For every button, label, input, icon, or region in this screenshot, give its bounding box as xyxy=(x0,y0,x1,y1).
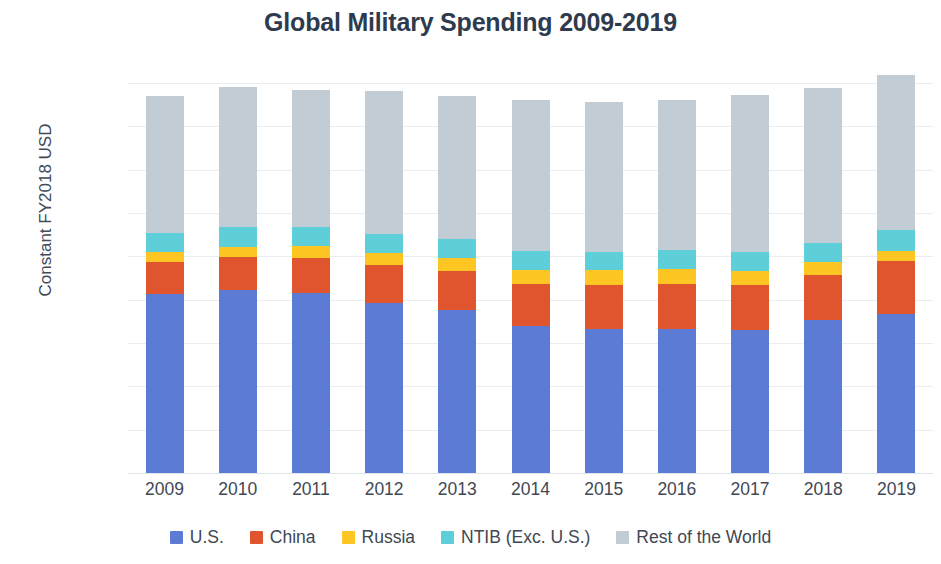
bar-segment[interactable] xyxy=(292,246,330,257)
legend-label: NTIB (Exc. U.S.) xyxy=(461,527,590,548)
bar-segment[interactable] xyxy=(146,96,184,233)
legend-item[interactable]: Rest of the World xyxy=(616,527,771,548)
bar-group[interactable] xyxy=(146,83,184,473)
bar-segment[interactable] xyxy=(804,275,842,320)
bar-group[interactable] xyxy=(658,83,696,473)
chart-title: Global Military Spending 2009-2019 xyxy=(0,8,941,37)
bar-segment[interactable] xyxy=(658,250,696,269)
bar-group[interactable] xyxy=(585,83,623,473)
legend-item[interactable]: Russia xyxy=(342,527,416,548)
bar-segment[interactable] xyxy=(292,293,330,473)
bar-segment[interactable] xyxy=(877,251,915,261)
bar-segment[interactable] xyxy=(146,262,184,294)
x-axis-tick-label: 2018 xyxy=(787,479,859,500)
bar-segment[interactable] xyxy=(804,262,842,275)
bar-segment[interactable] xyxy=(804,88,842,243)
plot-area: $0B$200B$400B$600B$800B$1000B$1200B$1400… xyxy=(128,83,933,473)
legend-label: China xyxy=(270,527,316,548)
bar-segment[interactable] xyxy=(512,251,550,270)
bar-group[interactable] xyxy=(365,83,403,473)
bar-segment[interactable] xyxy=(146,294,184,473)
bar-segment[interactable] xyxy=(219,227,257,247)
bar-segment[interactable] xyxy=(731,330,769,473)
bar-segment[interactable] xyxy=(658,269,696,284)
bar-segment[interactable] xyxy=(658,284,696,329)
legend-item[interactable]: China xyxy=(250,527,316,548)
bar-segment[interactable] xyxy=(219,87,257,227)
bar-segment[interactable] xyxy=(292,90,330,227)
bar-segment[interactable] xyxy=(219,257,257,290)
bar-group[interactable] xyxy=(804,83,842,473)
x-axis-tick-label: 2019 xyxy=(860,479,932,500)
bar-segment[interactable] xyxy=(658,100,696,250)
bar-segment[interactable] xyxy=(146,252,184,262)
bar-segment[interactable] xyxy=(365,253,403,266)
bar-segment[interactable] xyxy=(585,252,623,271)
bar-segment[interactable] xyxy=(585,270,623,285)
bar-group[interactable] xyxy=(877,83,915,473)
legend-item[interactable]: U.S. xyxy=(170,527,224,548)
bar-segment[interactable] xyxy=(365,265,403,302)
bar-segment[interactable] xyxy=(877,75,915,230)
legend-item[interactable]: NTIB (Exc. U.S.) xyxy=(441,527,590,548)
bar-segment[interactable] xyxy=(512,326,550,473)
bar-series-area xyxy=(128,83,933,473)
y-axis-title: Constant FY2018 USD xyxy=(36,80,56,340)
bar-segment[interactable] xyxy=(438,239,476,258)
bar-segment[interactable] xyxy=(219,247,257,257)
bar-group[interactable] xyxy=(512,83,550,473)
x-axis-tick-label: 2010 xyxy=(202,479,274,500)
bar-segment[interactable] xyxy=(585,102,623,252)
gridline xyxy=(128,473,933,474)
legend-label: U.S. xyxy=(190,527,224,548)
bar-segment[interactable] xyxy=(585,285,623,329)
legend-label: Russia xyxy=(362,527,416,548)
bar-segment[interactable] xyxy=(438,258,476,271)
bar-group[interactable] xyxy=(219,83,257,473)
bar-segment[interactable] xyxy=(804,320,842,473)
bar-segment[interactable] xyxy=(365,303,403,473)
bar-segment[interactable] xyxy=(292,258,330,293)
bar-segment[interactable] xyxy=(731,271,769,284)
bar-segment[interactable] xyxy=(731,285,769,331)
x-axis-tick-label: 2013 xyxy=(421,479,493,500)
bar-segment[interactable] xyxy=(877,230,915,251)
x-axis-tick-label: 2014 xyxy=(495,479,567,500)
bar-group[interactable] xyxy=(292,83,330,473)
bar-segment[interactable] xyxy=(146,233,184,253)
legend-swatch-icon xyxy=(616,531,629,544)
legend-swatch-icon xyxy=(342,531,355,544)
bar-segment[interactable] xyxy=(438,310,476,473)
bar-group[interactable] xyxy=(438,83,476,473)
x-axis-tick-label: 2015 xyxy=(568,479,640,500)
chart-legend: U.S.ChinaRussiaNTIB (Exc. U.S.)Rest of t… xyxy=(0,527,941,548)
x-axis-tick-label: 2017 xyxy=(714,479,786,500)
bar-segment[interactable] xyxy=(585,329,623,473)
x-axis-tick-label: 2009 xyxy=(129,479,201,500)
bar-segment[interactable] xyxy=(731,252,769,271)
chart-container: Global Military Spending 2009-2019 Const… xyxy=(0,0,941,564)
bar-segment[interactable] xyxy=(512,270,550,284)
bar-segment[interactable] xyxy=(731,95,769,252)
bar-segment[interactable] xyxy=(292,227,330,247)
bar-segment[interactable] xyxy=(438,96,476,238)
bar-group[interactable] xyxy=(731,83,769,473)
bar-segment[interactable] xyxy=(877,261,915,314)
bar-segment[interactable] xyxy=(512,100,550,251)
legend-label: Rest of the World xyxy=(636,527,771,548)
legend-swatch-icon xyxy=(441,531,454,544)
x-axis-tick-label: 2012 xyxy=(348,479,420,500)
bar-segment[interactable] xyxy=(219,290,257,473)
bar-segment[interactable] xyxy=(877,314,915,473)
bar-segment[interactable] xyxy=(438,271,476,310)
bar-segment[interactable] xyxy=(365,234,403,253)
bar-segment[interactable] xyxy=(658,329,696,473)
bar-segment[interactable] xyxy=(512,284,550,326)
legend-swatch-icon xyxy=(170,531,183,544)
bar-segment[interactable] xyxy=(365,91,403,233)
x-axis-tick-label: 2016 xyxy=(641,479,713,500)
legend-swatch-icon xyxy=(250,531,263,544)
bar-segment[interactable] xyxy=(804,243,842,262)
x-axis-tick-label: 2011 xyxy=(275,479,347,500)
